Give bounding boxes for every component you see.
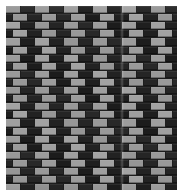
brick-tile-light (42, 14, 56, 21)
brick-tile-dark (57, 79, 71, 86)
brick-tile-light (42, 144, 56, 151)
brick-tile-dark (50, 136, 64, 143)
brick-tile-dark (21, 184, 35, 190)
brick-tile-light (93, 184, 107, 190)
brick-tile-dark (166, 168, 178, 175)
brick-tile-light (151, 71, 165, 78)
brick-tile-dark (57, 176, 71, 183)
brick-row (6, 95, 177, 102)
brick-row (6, 22, 177, 29)
brick-tile-dark (21, 38, 35, 45)
brick-tile-dark (86, 160, 100, 167)
brick-tile-dark (86, 176, 100, 183)
brick-tile-light (71, 63, 85, 70)
brick-tile-light (93, 22, 107, 29)
brick-tile-dark (137, 55, 151, 62)
brick-tile-light (129, 95, 143, 102)
brick-tile-dark (28, 47, 42, 54)
brick-tile-dark (6, 160, 12, 167)
brick-tile-dark (21, 22, 35, 29)
brick-tile-dark (108, 87, 122, 94)
brick-tile-light (129, 128, 143, 135)
brick-tile-light (13, 47, 27, 54)
brick-tile-light (100, 79, 114, 86)
brick-tile-dark (137, 6, 151, 13)
brick-tile-light (129, 14, 143, 21)
brick-tile-light (122, 71, 136, 78)
brick-tile-dark (21, 152, 35, 159)
brick-tile-light (122, 119, 136, 126)
brick-tile-dark (108, 6, 122, 13)
brick-tile-light (129, 111, 143, 118)
brick-row (6, 55, 177, 62)
brick-tile-light (129, 160, 143, 167)
brick-tile-light (122, 168, 136, 175)
brick-tile-light (35, 184, 49, 190)
brick-tile-dark (166, 87, 178, 94)
brick-tile-dark (28, 111, 42, 118)
brick-tile-light (100, 30, 114, 37)
brick-tile-light (100, 14, 114, 21)
brick-tile-light (13, 63, 27, 70)
brick-tile-dark (115, 160, 129, 167)
brick-tile-dark (173, 79, 177, 86)
brick-tile-dark (50, 168, 64, 175)
brick-tile-light (129, 30, 143, 37)
brick-tile-light (6, 71, 20, 78)
brick-tile-dark (50, 103, 64, 110)
brick-tile-light (71, 128, 85, 135)
brick-tile-dark (173, 144, 177, 151)
brick-tile-light (71, 176, 85, 183)
brick-tile-dark (86, 95, 100, 102)
brick-tile-dark (115, 63, 129, 70)
brick-tile-dark (144, 30, 158, 37)
brick-tile-light (35, 136, 49, 143)
brick-tile-dark (57, 160, 71, 167)
brick-tile-light (151, 119, 165, 126)
brick-tile-light (122, 152, 136, 159)
brick-tile-dark (115, 144, 129, 151)
brick-tile-dark (166, 6, 178, 13)
brick-tile-light (71, 30, 85, 37)
brick-tile-light (100, 95, 114, 102)
brick-tile-light (93, 119, 107, 126)
brick-tile-light (42, 111, 56, 118)
brick-tile-dark (6, 47, 12, 54)
brick-tile-light (158, 95, 172, 102)
brick-tile-light (42, 160, 56, 167)
brick-row (6, 160, 177, 167)
brick-tile-light (42, 47, 56, 54)
brick-tile-dark (166, 136, 178, 143)
brick-tile-light (158, 14, 172, 21)
brick-tile-light (6, 168, 20, 175)
brick-row (6, 63, 177, 70)
brick-tile-dark (144, 14, 158, 21)
brick-tile-light (6, 103, 20, 110)
brick-tile-dark (144, 111, 158, 118)
brick-tile-dark (57, 144, 71, 151)
brick-tile-dark (21, 55, 35, 62)
brick-tile-dark (144, 144, 158, 151)
brick-tile-light (93, 168, 107, 175)
brick-tile-light (42, 176, 56, 183)
brick-tile-dark (173, 160, 177, 167)
brick-tile-dark (108, 184, 122, 190)
brick-row (6, 168, 177, 175)
brick-tile-dark (86, 111, 100, 118)
brick-tile-light (64, 87, 78, 94)
brick-tile-light (151, 184, 165, 190)
brick-tile-light (13, 79, 27, 86)
brick-tile-dark (115, 47, 129, 54)
brick-tile-dark (173, 111, 177, 118)
brick-tile-dark (115, 176, 129, 183)
brick-tile-light (100, 128, 114, 135)
brick-tile-light (35, 119, 49, 126)
brick-tile-light (93, 55, 107, 62)
brick-tile-light (158, 47, 172, 54)
brick-tile-light (35, 103, 49, 110)
brick-tile-dark (21, 87, 35, 94)
brick-row (6, 71, 177, 78)
brick-tile-light (6, 136, 20, 143)
brick-tile-dark (108, 168, 122, 175)
brick-tile-light (6, 87, 20, 94)
